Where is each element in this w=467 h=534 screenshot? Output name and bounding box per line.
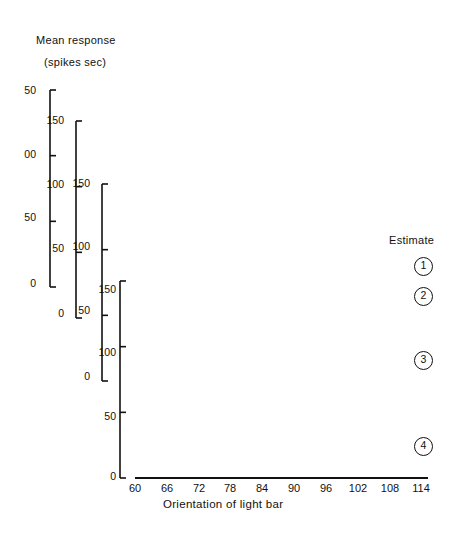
plot-canvas [0, 0, 467, 534]
